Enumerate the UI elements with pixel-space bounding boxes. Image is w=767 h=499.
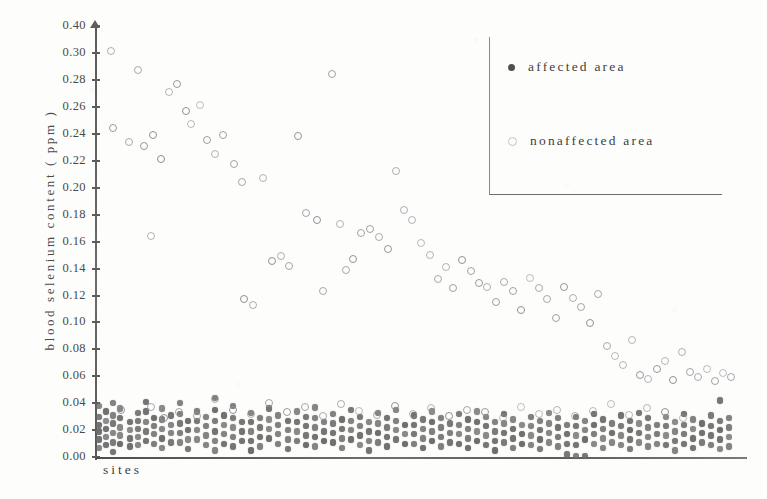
data-point-affected [411, 412, 417, 418]
data-point-nonaffected [219, 131, 227, 139]
data-point-nonaffected [240, 295, 248, 303]
data-point-nonaffected [203, 136, 211, 144]
data-point-affected [690, 435, 696, 441]
data-point-affected [492, 419, 498, 425]
data-point-affected [663, 414, 669, 420]
data-point-affected [212, 395, 218, 401]
data-point-affected [555, 434, 561, 440]
data-point-affected [663, 442, 669, 448]
data-point-affected [510, 426, 516, 432]
data-point-affected [573, 442, 579, 448]
data-point-affected [393, 407, 399, 413]
data-point-nonaffected [247, 410, 255, 418]
data-point-affected [212, 438, 218, 444]
data-point-affected [366, 447, 372, 453]
data-point-nonaffected [481, 408, 489, 416]
data-point-affected [564, 422, 570, 428]
data-point-nonaffected [669, 376, 677, 384]
data-point-nonaffected [679, 414, 687, 422]
data-point-affected [127, 435, 133, 441]
data-point-nonaffected [475, 279, 483, 287]
data-point-nonaffected [193, 412, 201, 420]
data-point-affected [726, 443, 732, 449]
data-point-affected [456, 411, 462, 417]
data-point-affected [339, 426, 345, 432]
data-point-nonaffected [408, 216, 416, 224]
data-point-affected [582, 418, 588, 424]
data-point-nonaffected [500, 278, 508, 286]
data-point-affected [159, 445, 165, 451]
data-point-affected [618, 442, 624, 448]
data-point-nonaffected [517, 403, 525, 411]
data-point-affected [375, 430, 381, 436]
data-point-nonaffected [661, 408, 669, 416]
data-point-affected [429, 408, 435, 414]
data-point-affected [177, 420, 183, 426]
data-point-nonaffected [445, 412, 453, 420]
data-point-affected [591, 422, 597, 428]
data-point-affected [103, 426, 109, 432]
data-point-affected [168, 430, 174, 436]
y-axis-tick [92, 321, 100, 323]
data-point-nonaffected [268, 257, 276, 265]
data-point-affected [212, 428, 218, 434]
data-point-affected [393, 427, 399, 433]
data-point-affected [177, 411, 183, 417]
data-point-affected [110, 400, 116, 406]
data-point-nonaffected [337, 400, 345, 408]
data-point-affected [690, 416, 696, 422]
data-point-affected [110, 412, 116, 418]
data-point-nonaffected [594, 290, 602, 298]
data-point-affected [600, 445, 606, 451]
data-point-affected [375, 420, 381, 426]
data-point-affected [465, 416, 471, 422]
data-point-affected [708, 432, 714, 438]
data-point-affected [357, 432, 363, 438]
data-point-affected [203, 432, 209, 438]
data-point-affected [672, 438, 678, 444]
data-point-affected [248, 447, 254, 453]
data-point-nonaffected [366, 225, 374, 233]
data-point-affected [600, 426, 606, 432]
data-point-affected [681, 431, 687, 437]
data-point-affected [429, 419, 435, 425]
data-point-affected [699, 420, 705, 426]
data-point-affected [627, 436, 633, 442]
data-point-affected [555, 415, 561, 421]
data-point-affected [627, 427, 633, 433]
data-point-affected [708, 423, 714, 429]
y-axis-tick [92, 160, 100, 162]
data-point-nonaffected [173, 80, 181, 88]
data-point-affected [717, 418, 723, 424]
data-point-affected [600, 435, 606, 441]
data-point-nonaffected [134, 66, 142, 74]
data-point-affected [366, 438, 372, 444]
data-point-affected [717, 427, 723, 433]
data-point-affected [420, 416, 426, 422]
data-point-affected [402, 422, 408, 428]
data-point-nonaffected [711, 377, 719, 385]
data-point-nonaffected [426, 251, 434, 259]
data-point-affected [221, 422, 227, 428]
data-point-affected [212, 447, 218, 453]
data-point-nonaffected [285, 262, 293, 270]
data-point-affected [645, 415, 651, 421]
data-point-affected [339, 435, 345, 441]
data-point-affected [143, 408, 149, 414]
data-point-affected [159, 405, 165, 411]
data-point-affected [266, 405, 272, 411]
data-point-affected [564, 431, 570, 437]
data-point-nonaffected [569, 294, 577, 302]
data-point-affected [438, 424, 444, 430]
data-point-affected [501, 411, 507, 417]
data-point-affected [519, 422, 525, 428]
data-point-affected [312, 404, 318, 410]
data-point-affected [275, 412, 281, 418]
data-point-affected [447, 439, 453, 445]
data-point-affected [717, 436, 723, 442]
data-point-affected [185, 446, 191, 452]
y-axis-tick [92, 429, 100, 431]
data-point-affected [501, 420, 507, 426]
data-point-nonaffected [703, 365, 711, 373]
data-point-affected [564, 441, 570, 447]
